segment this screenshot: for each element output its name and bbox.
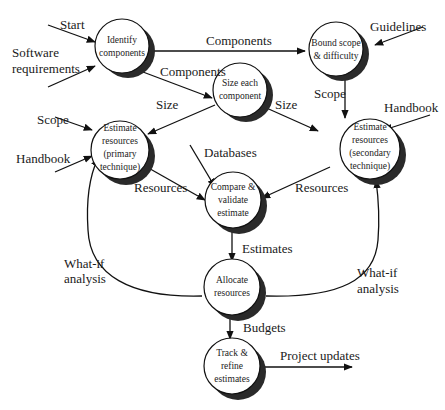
label-size-left: Size — [156, 97, 179, 112]
label-estimates: Estimates — [242, 241, 293, 256]
label-start: Start — [60, 17, 85, 32]
label-handbook-left: Handbook — [16, 151, 71, 166]
label-databases: Databases — [204, 145, 257, 160]
label-handbook-right: Handbook — [384, 100, 439, 115]
svg-text:resources: resources — [214, 288, 250, 298]
label-whatif-right-2: analysis — [357, 281, 399, 296]
node-track-refine: Track & refine estimates — [204, 338, 266, 400]
node-compare-validate: Compare & validate estimate — [205, 172, 267, 234]
label-scope-right: Scope — [314, 86, 346, 101]
label-software-requirements-1: Software — [12, 45, 59, 60]
node-allocate-resources: Allocate resources — [204, 259, 266, 321]
svg-text:estimates: estimates — [214, 374, 250, 384]
svg-text:& difficulty: & difficulty — [314, 51, 359, 61]
svg-text:components: components — [99, 48, 145, 58]
svg-text:Bound scope: Bound scope — [311, 38, 360, 48]
svg-text:(primary: (primary — [103, 149, 136, 160]
svg-text:Estimate: Estimate — [103, 123, 136, 133]
svg-text:Identify: Identify — [107, 35, 137, 45]
node-identify-components: Identify components — [95, 19, 155, 78]
node-estimate-primary: Estimate resources (primary technique) — [91, 121, 155, 185]
label-components-top: Components — [206, 33, 272, 48]
svg-text:technique): technique) — [350, 161, 390, 172]
svg-text:technique): technique) — [100, 162, 140, 173]
node-bound-scope: Bound scope & difficulty — [309, 22, 369, 81]
svg-text:Allocate: Allocate — [216, 275, 248, 285]
label-whatif-left-1: What-if — [64, 256, 105, 271]
svg-text:Compare &: Compare & — [211, 182, 256, 192]
svg-text:(secondary: (secondary — [349, 148, 391, 159]
svg-text:resources: resources — [352, 135, 388, 145]
label-components-mid: Components — [160, 64, 226, 79]
svg-text:component: component — [219, 91, 262, 101]
svg-text:estimate: estimate — [217, 208, 249, 218]
label-whatif-right-1: What-if — [357, 265, 398, 280]
svg-text:validate: validate — [218, 195, 248, 205]
svg-text:resources: resources — [102, 136, 138, 146]
label-project-updates: Project updates — [280, 348, 360, 363]
software-estimation-dataflow-diagram: Identify components Bound scope & diffic… — [0, 0, 445, 410]
label-resources-right: Resources — [295, 180, 348, 195]
label-whatif-left-2: analysis — [64, 271, 106, 286]
label-resources-left: Resources — [134, 180, 187, 195]
svg-text:Track &: Track & — [216, 348, 248, 358]
node-estimate-secondary: Estimate resources (secondary technique) — [340, 119, 406, 185]
svg-text:Size each: Size each — [222, 78, 258, 88]
svg-text:refine: refine — [221, 361, 243, 371]
label-software-requirements-2: requirements — [12, 61, 80, 76]
label-size-right: Size — [275, 97, 298, 112]
label-guidelines: Guidelines — [370, 19, 426, 34]
svg-text:Estimate: Estimate — [353, 122, 386, 132]
label-budgets: Budgets — [243, 320, 286, 335]
label-scope-left: Scope — [37, 112, 69, 127]
